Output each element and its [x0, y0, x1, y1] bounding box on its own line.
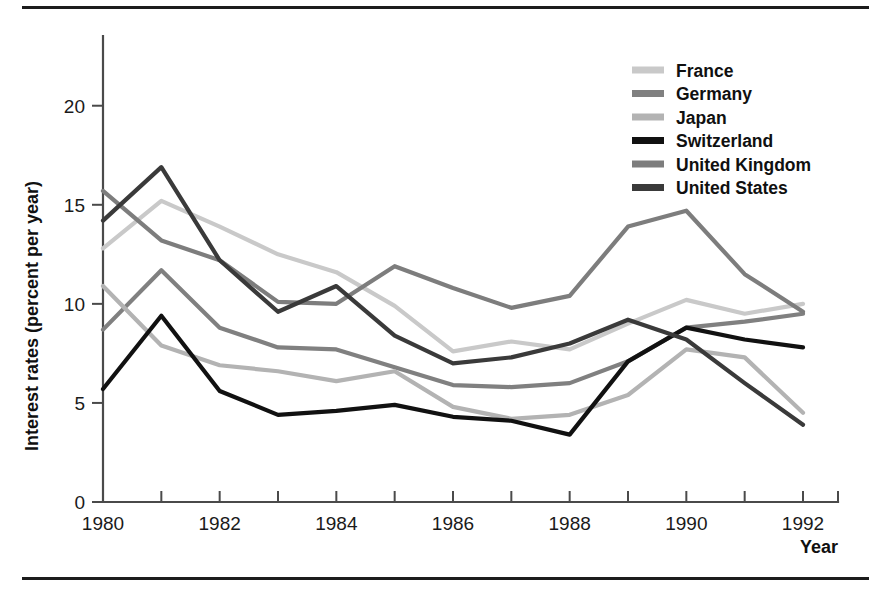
top-divider-rule	[22, 6, 869, 9]
x-tick-label-1982: 1982	[199, 513, 241, 534]
series-line-united-kingdom	[103, 191, 803, 312]
axis-lines	[103, 36, 838, 502]
legend-label-united-kingdom: United Kingdom	[676, 155, 811, 175]
y-tick-label-10: 10	[64, 294, 85, 315]
x-tick-label-1992: 1992	[782, 513, 824, 534]
y-axis-tick-labels: 05101520	[64, 96, 85, 513]
x-axis-ticks	[103, 491, 838, 502]
x-tick-label-1986: 1986	[432, 513, 474, 534]
legend-label-germany: Germany	[676, 84, 752, 104]
series-lines-group	[103, 167, 803, 434]
x-axis-title: Year	[800, 537, 838, 557]
y-tick-label-15: 15	[64, 195, 85, 216]
y-tick-label-0: 0	[74, 492, 85, 513]
legend-label-japan: Japan	[676, 108, 727, 128]
x-axis-tick-labels: 1980198219841986198819901992	[82, 513, 824, 534]
x-tick-label-1990: 1990	[665, 513, 707, 534]
series-line-switzerland	[103, 316, 803, 435]
x-tick-label-1984: 1984	[315, 513, 358, 534]
y-axis-title: Interest rates (percent per year)	[22, 181, 42, 451]
x-tick-label-1980: 1980	[82, 513, 124, 534]
chart-area: 05101520 1980198219841986198819901992 In…	[0, 16, 891, 576]
y-tick-label-5: 5	[74, 393, 85, 414]
legend: FranceGermanyJapanSwitzerlandUnited King…	[632, 61, 811, 199]
legend-label-switzerland: Switzerland	[676, 131, 773, 151]
y-tick-label-20: 20	[64, 96, 85, 117]
line-chart-svg: 05101520 1980198219841986198819901992 In…	[0, 16, 891, 576]
bottom-divider-rule	[22, 577, 869, 580]
x-tick-label-1988: 1988	[549, 513, 591, 534]
legend-label-united-states: United States	[676, 178, 788, 198]
y-axis-ticks	[92, 106, 103, 502]
legend-label-france: France	[676, 61, 734, 81]
figure-root: 05101520 1980198219841986198819901992 In…	[0, 0, 891, 595]
